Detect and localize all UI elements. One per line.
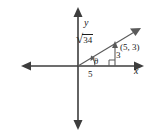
right-angle-marker [109, 60, 115, 66]
radicand-value: 34 [82, 34, 93, 45]
angle-theta-label: θ [94, 57, 98, 66]
coordinate-plane-diagram [0, 0, 152, 134]
math-figure: y x 5 3 θ (5, 3) √ 34 [0, 0, 152, 134]
y-axis-label: y [84, 18, 88, 28]
x-axis-label: x [134, 66, 138, 76]
opposite-leg-length-label: 3 [116, 51, 121, 60]
terminal-ray-arrowhead [130, 28, 141, 36]
point-coordinates-label: (5, 3) [120, 43, 140, 52]
y-axis-up-arrowhead [74, 7, 83, 17]
adjacent-leg-length-label: 5 [88, 70, 93, 79]
x-axis-left-arrowhead [21, 62, 31, 71]
hypotenuse-length-label: √ 34 [76, 34, 93, 45]
y-axis-down-arrowhead [74, 120, 83, 130]
